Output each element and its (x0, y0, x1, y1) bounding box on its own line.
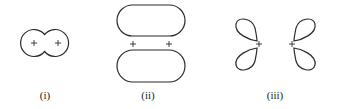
plus-sign-iii-left (256, 41, 262, 47)
orbital-diagram (0, 0, 338, 109)
panel-i-figure (21, 30, 69, 57)
lobe-upper-left (236, 19, 257, 41)
plus-sign-iii-right (289, 41, 295, 47)
lobe-upper-right (294, 19, 315, 41)
panel-label-i: (i) (40, 89, 50, 101)
plus-sign-i-left (31, 40, 37, 46)
lobe-lower-left (236, 48, 257, 70)
panel-label-iii: (iii) (267, 89, 284, 101)
panel-label-ii: (ii) (141, 89, 154, 101)
s-orbital-overlap-outline (21, 30, 69, 57)
plus-sign-ii-left (130, 41, 136, 47)
upper-lobe (117, 5, 185, 36)
plus-sign-ii-right (166, 41, 172, 47)
lobe-lower-right (294, 48, 315, 70)
panel-ii-figure (117, 5, 185, 82)
panel-iii-figure (236, 19, 315, 70)
plus-sign-i-right (55, 40, 61, 46)
lower-lobe (117, 50, 185, 82)
